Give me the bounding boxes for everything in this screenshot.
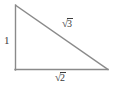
hypotenuse-line [16, 6, 108, 70]
hypotenuse-radicand: 3 [67, 18, 73, 30]
triangle-figure: 1 √3 √2 [0, 0, 116, 91]
horizontal-leg-radicand: 2 [60, 72, 66, 84]
horizontal-leg-label: √2 [55, 72, 66, 84]
vertical-leg-label: 1 [4, 35, 10, 46]
horizontal-leg-radical: √2 [55, 72, 66, 84]
hypotenuse-label: √3 [62, 18, 73, 30]
hypotenuse-radical: √3 [62, 18, 73, 30]
